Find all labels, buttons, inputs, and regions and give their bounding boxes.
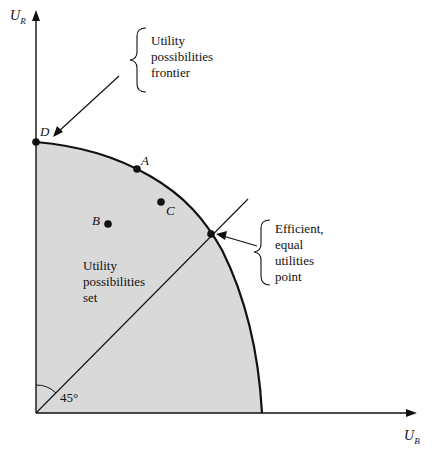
frontier-callout: Utility possibilities frontier bbox=[151, 33, 213, 81]
efficient-brace-icon bbox=[254, 220, 270, 285]
point-c bbox=[157, 198, 165, 206]
point-d bbox=[32, 138, 40, 146]
point-b-label: B bbox=[92, 213, 100, 228]
point-a-label: A bbox=[141, 153, 149, 168]
x-axis-label: UB bbox=[404, 428, 420, 446]
point-a bbox=[133, 165, 141, 173]
x-axis-label-subscript: B bbox=[414, 436, 420, 446]
frontier-pointer-arrow-icon bbox=[53, 126, 63, 137]
y-axis-arrow-icon bbox=[32, 10, 40, 21]
point-efficient bbox=[207, 230, 215, 238]
frontier-brace-icon bbox=[130, 28, 146, 92]
efficient-pointer-arrow-icon bbox=[216, 231, 227, 240]
efficient-pointer-line bbox=[223, 236, 257, 246]
point-c-label: C bbox=[166, 203, 175, 218]
frontier-pointer-line bbox=[58, 76, 119, 132]
x-axis-arrow-icon bbox=[406, 409, 417, 417]
point-d-label: D bbox=[40, 124, 49, 139]
y-axis-label: UR bbox=[10, 8, 26, 26]
x-axis-label-main: U bbox=[404, 428, 414, 443]
utility-possibilities-set-label: Utility possibilities set bbox=[83, 258, 145, 306]
point-b bbox=[104, 220, 112, 228]
y-axis-label-main: U bbox=[10, 8, 20, 23]
efficient-callout: Efficient, equal utilities point bbox=[275, 221, 324, 285]
angle-label: 45° bbox=[60, 390, 78, 405]
utility-possibilities-set-region bbox=[36, 142, 262, 413]
y-axis-label-subscript: R bbox=[20, 16, 26, 26]
